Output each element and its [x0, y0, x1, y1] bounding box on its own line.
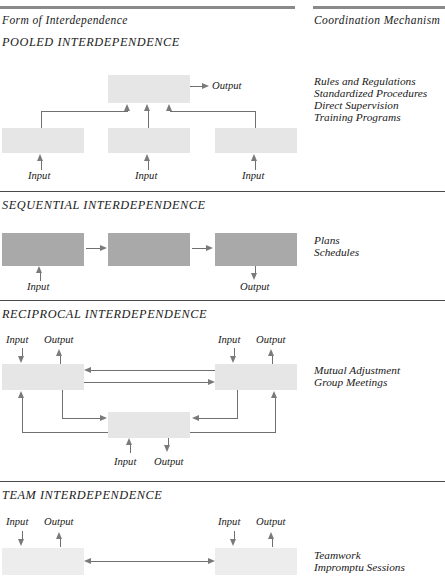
pooled-input-arrowhead-1	[37, 154, 43, 161]
section-title-sequential: SEQUENTIAL INTERDEPENDENCE	[2, 198, 206, 213]
team-mechanism-2: Impromptu Sessions	[314, 561, 405, 574]
reciprocal-left-input-arrowhead	[18, 356, 24, 363]
team-right-output-arrowhead	[268, 532, 274, 539]
reciprocal-line-bottom-to-left-horizontal	[22, 432, 108, 433]
header-left-label: Form of Interdependence	[2, 14, 128, 26]
sequential-chain-arrowhead-1	[100, 245, 107, 251]
pooled-connector-middle-vertical	[148, 110, 149, 128]
interdependence-diagram: Form of Interdependence Coordination Mec…	[0, 0, 445, 579]
team-box-right	[215, 548, 297, 575]
team-mechanism-1: Teamwork	[314, 549, 361, 562]
divider-after-sequential	[0, 300, 445, 301]
sequential-input-line	[40, 272, 41, 281]
pooled-connector-left-horizontal	[41, 111, 128, 112]
reciprocal-right-input-arrowhead	[230, 356, 236, 363]
pooled-mechanism-3: Direct Supervision	[314, 99, 399, 112]
reciprocal-left-output-arrowhead	[56, 349, 62, 356]
sequential-output-arrowhead	[251, 273, 257, 280]
reciprocal-line-right-down-horizontal	[198, 418, 238, 419]
team-right-output-label: Output	[256, 516, 285, 527]
section-title-team: TEAM INTERDEPENDENCE	[2, 488, 162, 503]
pooled-connector-right-vertical	[255, 111, 256, 128]
sequential-box-3	[215, 233, 297, 266]
reciprocal-bottom-output-arrowhead	[164, 445, 170, 452]
pooled-mechanism-1: Rules and Regulations	[314, 75, 416, 88]
sequential-input-arrowhead	[36, 266, 42, 273]
pooled-arrowhead-left	[124, 104, 130, 111]
sequential-mechanism-2: Schedules	[314, 246, 359, 259]
reciprocal-line-bottom-to-right-horizontal	[190, 432, 276, 433]
reciprocal-right-output-arrowhead	[268, 349, 274, 356]
reciprocal-right-output-label: Output	[256, 334, 285, 345]
pooled-input-line-1	[41, 160, 42, 170]
pooled-output-arrowhead	[202, 83, 209, 89]
pooled-input-arrowhead-3	[251, 154, 257, 161]
sequential-input-label: Input	[27, 281, 49, 292]
reciprocal-arrowhead-into-left-box	[18, 391, 24, 398]
pooled-output-box	[108, 75, 190, 103]
team-arrowhead-left	[84, 558, 91, 564]
pooled-arrowhead-right	[166, 104, 172, 111]
sequential-box-2	[108, 233, 190, 266]
team-box-left	[2, 548, 84, 575]
reciprocal-box-left	[2, 364, 84, 390]
pooled-input-label-2: Input	[135, 170, 157, 181]
team-right-input-label: Input	[218, 516, 240, 527]
reciprocal-arrowhead-into-right-box	[271, 391, 277, 398]
sequential-box-1	[2, 233, 84, 266]
sequential-chain-line-2	[192, 248, 207, 249]
reciprocal-right-input-label: Input	[218, 334, 240, 345]
section-title-reciprocal: RECIPROCAL INTERDEPENDENCE	[2, 307, 207, 322]
reciprocal-box-bottom	[108, 412, 190, 438]
divider-after-pooled	[0, 191, 445, 192]
pooled-output-label: Output	[212, 80, 241, 91]
reciprocal-arrowhead-into-bottom-right	[192, 415, 199, 421]
reciprocal-line-bottom-to-left-vertical	[22, 397, 23, 433]
team-left-input-arrowhead	[18, 539, 24, 546]
pooled-mechanism-2: Standardized Procedures	[314, 87, 427, 100]
pooled-connector-right-horizontal	[170, 111, 256, 112]
header-rule-right	[313, 6, 445, 9]
reciprocal-arrowhead-left-to-right	[208, 379, 215, 385]
reciprocal-bottom-input-line	[130, 444, 131, 453]
pooled-mechanism-4: Training Programs	[314, 111, 401, 124]
pooled-input-line-3	[255, 160, 256, 170]
reciprocal-arrowhead-right-to-left	[84, 367, 91, 373]
pooled-input-label-1: Input	[28, 170, 50, 181]
reciprocal-line-right-to-left	[90, 370, 215, 371]
sequential-chain-arrowhead-2	[206, 245, 213, 251]
sequential-mechanism-1: Plans	[314, 234, 340, 247]
pooled-connector-left-vertical	[41, 111, 42, 128]
divider-after-reciprocal	[0, 481, 445, 482]
reciprocal-bottom-input-label: Input	[114, 456, 136, 467]
pooled-unit-box-3	[215, 128, 297, 153]
reciprocal-mechanism-2: Group Meetings	[314, 376, 387, 389]
header-right-label: Coordination Mechanism	[314, 14, 440, 26]
team-left-output-arrowhead	[56, 532, 62, 539]
reciprocal-arrowhead-into-bottom-left	[100, 415, 107, 421]
reciprocal-right-output-line	[272, 355, 273, 364]
reciprocal-left-input-label: Input	[6, 334, 28, 345]
team-left-output-label: Output	[44, 516, 73, 527]
team-left-output-line	[60, 538, 61, 547]
sequential-chain-line-1	[86, 248, 101, 249]
sequential-output-label: Output	[240, 281, 269, 292]
section-title-pooled: POOLED INTERDEPENDENCE	[2, 35, 180, 50]
reciprocal-line-left-down	[62, 390, 63, 419]
pooled-unit-box-2	[108, 128, 190, 153]
pooled-input-label-3: Input	[242, 170, 264, 181]
pooled-unit-box-1	[2, 128, 84, 153]
reciprocal-left-output-line	[60, 355, 61, 364]
pooled-input-line-2	[148, 160, 149, 170]
reciprocal-bottom-output-label: Output	[154, 456, 183, 467]
reciprocal-box-right	[215, 364, 297, 390]
reciprocal-line-right-down	[237, 390, 238, 419]
team-right-input-arrowhead	[230, 539, 236, 546]
reciprocal-line-left-down-horizontal	[62, 418, 102, 419]
reciprocal-line-bottom-to-right-vertical	[275, 397, 276, 433]
pooled-input-arrowhead-2	[144, 154, 150, 161]
reciprocal-left-output-label: Output	[44, 334, 73, 345]
header-rule-left	[0, 6, 295, 9]
team-arrowhead-right	[208, 558, 215, 564]
team-left-input-label: Input	[6, 516, 28, 527]
